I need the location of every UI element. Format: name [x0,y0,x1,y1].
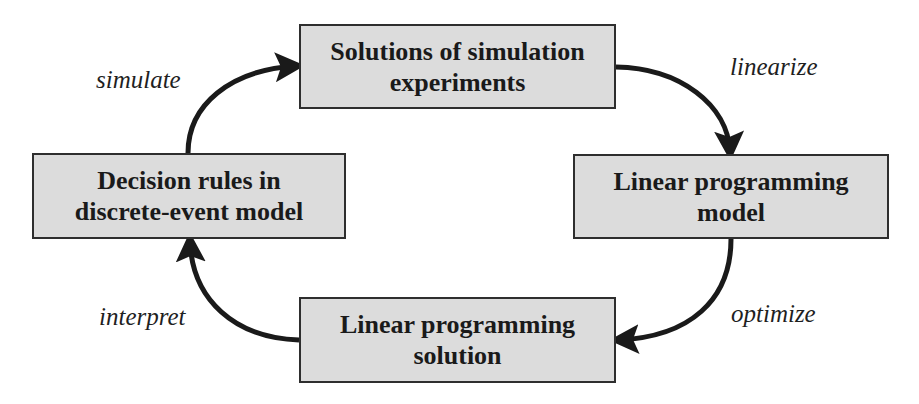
edge-label-interpret: interpret [99,303,186,331]
node-text-line1: Linear programming [613,166,848,197]
edge-label-optimize: optimize [731,300,816,328]
node-text-line2: discrete-event model [75,196,303,227]
node-text-line2: solution [413,340,501,371]
node-lp-model: Linear programming model [573,154,889,239]
arrow-simulate [188,66,296,153]
node-text-line2: model [697,197,765,228]
edge-label-linearize: linearize [730,53,818,81]
edge-label-simulate: simulate [96,66,181,94]
arrow-optimize [618,239,731,340]
arrow-interpret [190,241,299,340]
node-decision-rules: Decision rules in discrete-event model [32,153,346,239]
arrow-linearize [616,67,730,152]
diagram-canvas: Solutions of simulation experiments Line… [0,0,919,404]
node-text-line2: experiments [390,67,526,98]
node-text-line1: Decision rules in [97,165,280,196]
node-text-line1: Solutions of simulation [330,36,584,67]
node-lp-solution: Linear programming solution [299,297,616,383]
node-text-line1: Linear programming [340,309,575,340]
node-simulation-solutions: Solutions of simulation experiments [299,24,616,109]
